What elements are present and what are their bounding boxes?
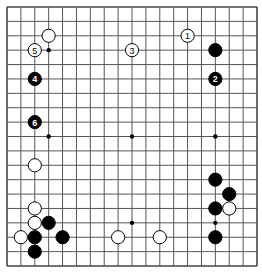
stones-layer: 546312 xyxy=(14,29,236,258)
white-stone-move-3: 3 xyxy=(125,44,138,57)
black-stone-icon xyxy=(209,173,222,186)
black-stone xyxy=(28,245,41,258)
black-stone-icon xyxy=(28,245,41,258)
star-point xyxy=(46,48,50,52)
move-number-label: 4 xyxy=(32,74,37,84)
star-point xyxy=(213,221,217,225)
black-stone-icon xyxy=(42,216,55,229)
white-stone-icon xyxy=(28,202,41,215)
star-point xyxy=(46,134,50,138)
move-number-label: 2 xyxy=(213,74,218,84)
white-stone-move-5: 5 xyxy=(28,44,41,57)
white-stone xyxy=(28,216,41,229)
black-stone xyxy=(223,187,236,200)
black-stone-move-2: 2 xyxy=(209,72,222,85)
black-stone-icon xyxy=(223,187,236,200)
black-stone xyxy=(209,173,222,186)
black-stone xyxy=(209,202,222,215)
move-number-label: 3 xyxy=(130,46,135,56)
white-stone xyxy=(153,231,166,244)
white-stone xyxy=(223,202,236,215)
white-stone-icon xyxy=(42,29,55,42)
white-stone xyxy=(112,231,125,244)
white-stone-icon xyxy=(28,216,41,229)
star-point xyxy=(130,134,134,138)
black-stone-icon xyxy=(209,231,222,244)
white-stone-icon xyxy=(153,231,166,244)
go-board[interactable]: 546312 xyxy=(0,0,262,275)
white-stone xyxy=(42,29,55,42)
star-point xyxy=(213,134,217,138)
move-number-label: 5 xyxy=(32,46,37,56)
black-stone-move-6: 6 xyxy=(28,116,41,129)
white-stone-move-1: 1 xyxy=(181,29,194,42)
white-stone-icon xyxy=(28,159,41,172)
white-stone xyxy=(28,159,41,172)
black-stone-icon xyxy=(56,231,69,244)
black-stone xyxy=(56,231,69,244)
black-stone xyxy=(209,44,222,57)
star-point xyxy=(130,221,134,225)
black-stone-icon xyxy=(209,202,222,215)
black-stone-icon xyxy=(28,231,41,244)
white-stone xyxy=(14,231,27,244)
black-stone xyxy=(209,231,222,244)
black-stone-icon xyxy=(209,44,222,57)
white-stone xyxy=(28,202,41,215)
black-stone xyxy=(28,231,41,244)
black-stone xyxy=(42,216,55,229)
move-number-label: 6 xyxy=(32,118,37,128)
black-stone-move-4: 4 xyxy=(28,72,41,85)
white-stone-icon xyxy=(223,202,236,215)
white-stone-icon xyxy=(112,231,125,244)
white-stone-icon xyxy=(14,231,27,244)
move-number-label: 1 xyxy=(185,31,190,41)
